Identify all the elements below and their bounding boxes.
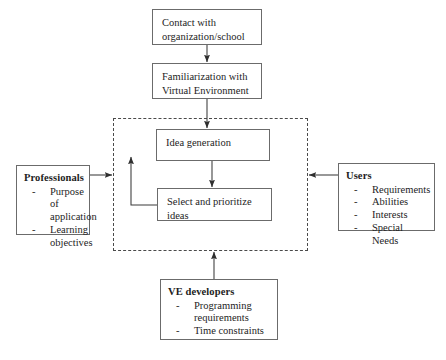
ve-developers-heading: VE developers bbox=[168, 285, 273, 299]
bullet-dash-icon: - bbox=[354, 196, 358, 209]
list-item-label: Interests bbox=[372, 209, 408, 220]
bullet-dash-icon: - bbox=[32, 224, 36, 237]
ve-developers-list: - Programming requirements - Time constr… bbox=[168, 300, 273, 338]
list-item: - Purpose of application bbox=[24, 186, 85, 224]
bullet-dash-icon: - bbox=[176, 325, 180, 338]
node-contact-with-organization[interactable]: Contact with organization/school bbox=[152, 9, 262, 45]
list-item-label: Purpose of application bbox=[50, 186, 97, 223]
node-users[interactable]: Users - Requirements - Abilities - Inter… bbox=[338, 163, 435, 231]
bullet-dash-icon: - bbox=[32, 186, 36, 199]
bullet-dash-icon: - bbox=[354, 209, 358, 222]
professionals-heading: Professionals bbox=[24, 171, 85, 185]
list-item: - Interests bbox=[346, 209, 430, 222]
list-item: - Special Needs bbox=[346, 222, 430, 248]
bullet-dash-icon: - bbox=[176, 300, 180, 313]
list-item-label: Programming requirements bbox=[194, 300, 252, 324]
list-item-label: Time constraints bbox=[194, 325, 264, 336]
node-familiarization-with-ve[interactable]: Familiarization with Virtual Environment bbox=[152, 63, 262, 99]
list-item: - Learning objectives bbox=[24, 224, 85, 250]
list-item-label: Abilities bbox=[372, 196, 408, 207]
diagram-canvas: Contact with organization/school Familia… bbox=[0, 0, 446, 360]
bullet-dash-icon: - bbox=[354, 184, 358, 197]
list-item: - Programming requirements bbox=[168, 300, 273, 326]
node-familiarization-label: Familiarization with Virtual Environment bbox=[162, 70, 261, 97]
node-select-prioritize-label: Select and prioritize ideas bbox=[167, 195, 271, 222]
professionals-list: - Purpose of application - Learning obje… bbox=[24, 186, 85, 250]
list-item: - Abilities bbox=[346, 196, 430, 209]
node-select-and-prioritize-ideas[interactable]: Select and prioritize ideas bbox=[157, 188, 272, 221]
users-heading: Users bbox=[346, 169, 430, 183]
list-item: - Requirements bbox=[346, 184, 430, 197]
node-contact-label: Contact with organization/school bbox=[162, 16, 261, 43]
node-ve-developers[interactable]: VE developers - Programming requirements… bbox=[160, 279, 278, 340]
node-professionals[interactable]: Professionals - Purpose of application -… bbox=[16, 165, 90, 235]
list-item-label: Requirements bbox=[372, 184, 430, 195]
list-item-label: Learning objectives bbox=[50, 224, 93, 248]
bullet-dash-icon: - bbox=[354, 222, 358, 235]
users-list: - Requirements - Abilities - Interests -… bbox=[346, 184, 430, 248]
list-item-label: Special Needs bbox=[372, 222, 403, 246]
node-idea-generation-label: Idea generation bbox=[166, 136, 269, 150]
list-item: - Time constraints bbox=[168, 325, 273, 338]
node-idea-generation[interactable]: Idea generation bbox=[156, 129, 270, 161]
